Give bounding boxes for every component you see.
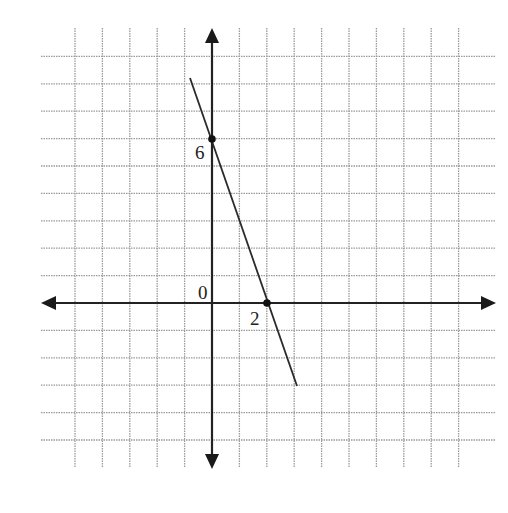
label-x-intercept: 2 (250, 308, 260, 329)
y-axis-up-arrow-icon (205, 28, 219, 43)
graph-canvas: 6 0 2 (0, 0, 508, 513)
y-axis-down-arrow-icon (205, 454, 219, 469)
x-intercept-point (263, 299, 271, 307)
x-axis-right-arrow-icon (481, 296, 496, 310)
label-origin: 0 (198, 282, 208, 303)
label-y-intercept: 6 (195, 142, 205, 163)
y-intercept-point (208, 135, 216, 143)
plotted-line (190, 78, 297, 386)
grid-lines (41, 28, 495, 468)
x-axis-left-arrow-icon (41, 296, 56, 310)
